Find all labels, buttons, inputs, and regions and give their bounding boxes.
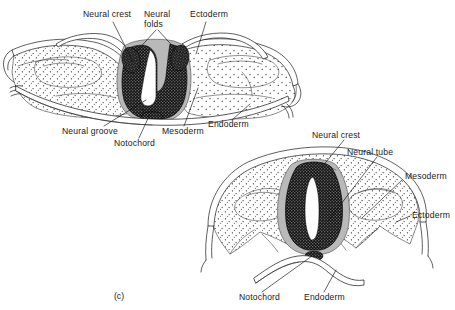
label-upper-neural-folds-line2: folds bbox=[144, 19, 163, 29]
label-lower-neural-crest: Neural crest bbox=[312, 130, 361, 140]
label-upper-endoderm: Endoderm bbox=[208, 119, 249, 129]
upper-neural-groove-tissue bbox=[119, 44, 191, 119]
lower-neural-tube bbox=[285, 162, 342, 250]
label-upper-ectoderm: Ectoderm bbox=[190, 9, 228, 19]
label-upper-notochord: Notochord bbox=[114, 138, 155, 148]
label-upper-neural-groove: Neural groove bbox=[62, 126, 118, 136]
label-lower-notochord: Notochord bbox=[239, 292, 280, 302]
figure-caption: (c) bbox=[114, 291, 124, 301]
label-lower-ectoderm: Ectoderm bbox=[412, 210, 450, 220]
label-lower-endoderm: Endoderm bbox=[304, 292, 345, 302]
label-lower-mesoderm: Mesoderm bbox=[405, 171, 447, 181]
label-upper-neural-crest: Neural crest bbox=[83, 9, 132, 19]
label-upper-neural-folds-line1: Neural bbox=[144, 9, 170, 19]
label-upper-mesoderm: Mesoderm bbox=[162, 126, 204, 136]
neurulation-figure: Neural crest Neural folds Ectoderm Neura… bbox=[0, 0, 455, 310]
figure-canvas: Neural crest Neural folds Ectoderm Neura… bbox=[0, 0, 455, 310]
label-lower-neural-tube: Neural tube bbox=[347, 147, 393, 157]
